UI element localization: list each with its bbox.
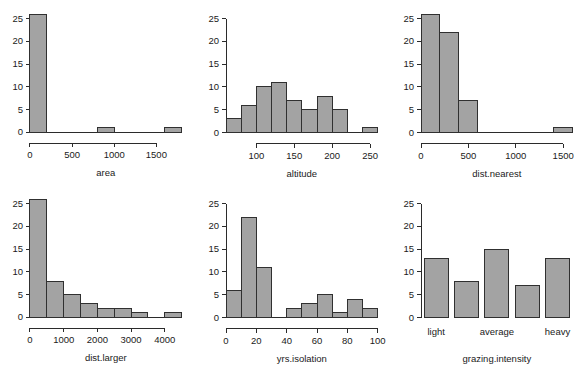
x-tick-label: 4000 bbox=[154, 334, 175, 345]
bar bbox=[459, 101, 478, 133]
y-tick-label: 15 bbox=[404, 58, 415, 69]
bar bbox=[301, 303, 316, 317]
y-tick-label: 25 bbox=[404, 197, 415, 208]
bar bbox=[317, 294, 332, 317]
bar bbox=[30, 14, 47, 132]
x-tick-label: 200 bbox=[324, 150, 340, 161]
bar bbox=[554, 128, 573, 133]
bar bbox=[286, 101, 301, 133]
x-tick-label: 0 bbox=[223, 334, 228, 345]
x-tick-label: 500 bbox=[461, 150, 477, 161]
y-tick-label: 15 bbox=[12, 243, 23, 254]
x-tick-label: 1500 bbox=[146, 149, 167, 160]
bar bbox=[226, 119, 241, 133]
bars-group bbox=[226, 217, 378, 317]
x-tick-label: 60 bbox=[311, 334, 322, 345]
bar bbox=[271, 82, 286, 132]
y-tick-label: 0 bbox=[213, 311, 218, 322]
y-tick-label: 10 bbox=[404, 81, 415, 92]
y-tick-label: 0 bbox=[213, 127, 218, 138]
y-tick-label: 25 bbox=[12, 13, 23, 24]
bars-group bbox=[30, 199, 182, 317]
bar bbox=[165, 312, 182, 317]
x-tick-label: 500 bbox=[64, 149, 80, 160]
y-tick-label: 20 bbox=[404, 220, 415, 231]
panel-area: 0510152025050010001500area bbox=[0, 0, 196, 185]
x-axis-title: dist.nearest bbox=[473, 168, 522, 179]
chart-grazing.intensity: 0510152025lightaverageheavygrazing.inten… bbox=[391, 185, 587, 369]
y-tick-label: 0 bbox=[409, 127, 414, 138]
bars-group bbox=[424, 249, 570, 317]
panel-yrs-isolation: 0510152025020406080100yrs.isolation bbox=[196, 185, 392, 369]
bar bbox=[47, 281, 64, 317]
y-tick-label: 20 bbox=[208, 220, 219, 231]
y-tick-label: 15 bbox=[404, 243, 415, 254]
y-tick-label: 10 bbox=[208, 81, 219, 92]
chart-yrs.isolation: 0510152025020406080100yrs.isolation bbox=[196, 185, 392, 369]
bar bbox=[165, 128, 182, 133]
bar bbox=[485, 249, 509, 317]
bar bbox=[226, 290, 241, 317]
bar bbox=[30, 199, 47, 317]
y-tick-label: 5 bbox=[409, 288, 414, 299]
y-tick-label: 15 bbox=[208, 58, 219, 69]
x-tick-label: 100 bbox=[248, 150, 264, 161]
x-tick-label: 150 bbox=[286, 150, 302, 161]
bar bbox=[241, 105, 256, 132]
x-axis-title: altitude bbox=[286, 168, 317, 179]
bar bbox=[97, 128, 114, 133]
bar bbox=[332, 110, 347, 133]
bar bbox=[131, 312, 148, 317]
x-tick-label: 1000 bbox=[506, 150, 527, 161]
x-axis-title: area bbox=[96, 167, 116, 178]
y-tick-label: 10 bbox=[208, 265, 219, 276]
histogram-panel-grid: 0510152025050010001500area 0510152025100… bbox=[0, 0, 587, 369]
y-tick-label: 25 bbox=[404, 13, 415, 24]
bar bbox=[256, 87, 271, 133]
chart-dist.larger: 051015202501000200030004000dist.larger bbox=[0, 185, 196, 369]
bar bbox=[317, 96, 332, 132]
x-axis-title: grazing.intensity bbox=[463, 352, 532, 363]
y-tick-label: 20 bbox=[404, 35, 415, 46]
y-tick-label: 0 bbox=[409, 311, 414, 322]
chart-dist.nearest: 0510152025050010001500dist.nearest bbox=[391, 0, 587, 185]
bars-group bbox=[30, 14, 182, 132]
x-tick-label: 40 bbox=[281, 334, 292, 345]
bar bbox=[362, 308, 377, 317]
bar bbox=[241, 217, 256, 317]
y-tick-label: 5 bbox=[213, 104, 218, 115]
panel-grazing-intensity: 0510152025lightaverageheavygrazing.inten… bbox=[391, 185, 587, 369]
x-tick-label: 2000 bbox=[87, 334, 108, 345]
x-tick-label: heavy bbox=[545, 325, 571, 336]
y-tick-label: 0 bbox=[18, 126, 23, 137]
y-tick-label: 5 bbox=[18, 104, 23, 115]
x-tick-label: 0 bbox=[27, 334, 32, 345]
x-tick-label: light bbox=[428, 325, 446, 336]
x-tick-label: 3000 bbox=[121, 334, 142, 345]
panel-dist-larger: 051015202501000200030004000dist.larger bbox=[0, 185, 196, 369]
bar bbox=[424, 258, 448, 317]
panel-dist-nearest: 0510152025050010001500dist.nearest bbox=[391, 0, 587, 185]
x-axis-title: dist.larger bbox=[85, 352, 127, 363]
chart-area: 0510152025050010001500area bbox=[0, 0, 196, 185]
y-tick-label: 0 bbox=[18, 311, 23, 322]
x-tick-label: 0 bbox=[27, 149, 32, 160]
bars-group bbox=[226, 82, 378, 132]
bar bbox=[440, 32, 459, 132]
y-tick-label: 15 bbox=[12, 58, 23, 69]
bar bbox=[64, 294, 81, 317]
bar bbox=[362, 128, 377, 133]
bar bbox=[301, 110, 316, 133]
x-tick-label: average bbox=[480, 325, 514, 336]
bars-group bbox=[421, 14, 573, 133]
y-tick-label: 5 bbox=[213, 288, 218, 299]
y-tick-label: 25 bbox=[208, 197, 219, 208]
y-tick-label: 20 bbox=[12, 220, 23, 231]
bar bbox=[114, 308, 131, 317]
x-tick-label: 1000 bbox=[104, 149, 125, 160]
y-tick-label: 25 bbox=[12, 197, 23, 208]
y-tick-label: 15 bbox=[208, 243, 219, 254]
x-tick-label: 250 bbox=[362, 150, 378, 161]
bar bbox=[332, 312, 347, 317]
bar bbox=[81, 303, 98, 317]
